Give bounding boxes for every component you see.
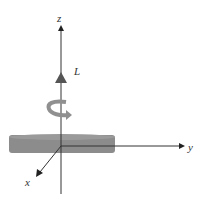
angular-momentum-arrow-icon <box>55 72 67 83</box>
rotation-arrow-icon <box>49 101 72 120</box>
angular-momentum-diagram: z y x L <box>0 0 202 201</box>
x-axis-label: x <box>24 176 30 188</box>
z-axis-label: z <box>56 12 62 24</box>
y-axis-label: y <box>187 141 193 153</box>
angular-momentum-label: L <box>73 65 80 77</box>
spinning-disk <box>9 134 115 153</box>
z-axis <box>58 25 64 194</box>
